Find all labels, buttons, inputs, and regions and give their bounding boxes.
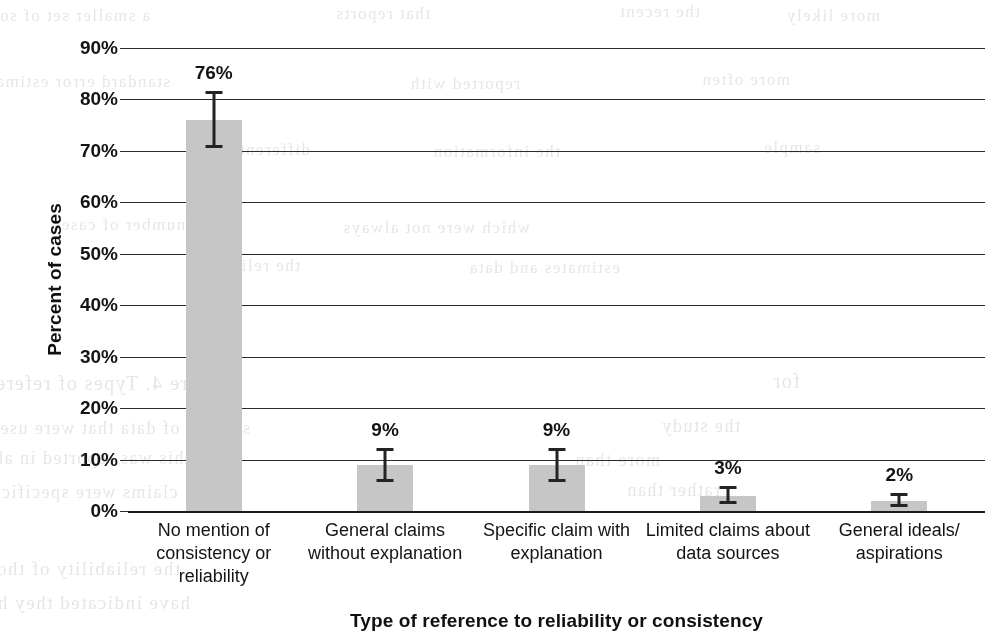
x-axis-category-label: No mention ofconsistency orreliability [128, 519, 299, 588]
bar[interactable] [186, 120, 242, 511]
error-bar-cap-lower [205, 145, 222, 148]
y-axis-tick-label: 20% [0, 398, 118, 417]
y-axis-tick-label: 10% [0, 450, 118, 469]
x-axis-category-label-line: No mention of [128, 519, 299, 542]
x-axis-category-label-line: without explanation [299, 542, 470, 565]
error-bar-cap-upper [205, 91, 222, 94]
y-axis-title-holder: Percent of cases [44, 48, 74, 511]
bar-value-label: 76% [195, 63, 233, 82]
error-bar-cap-upper [891, 493, 908, 496]
y-axis-tick-label: 0% [0, 501, 118, 520]
error-bar-cap-lower [548, 479, 565, 482]
y-axis-tick-label: 30% [0, 347, 118, 366]
y-axis-tick-label: 70% [0, 141, 118, 160]
error-bar-cap-upper [377, 448, 394, 451]
bar-group[interactable]: 9% [529, 48, 585, 511]
bar-chart: Percent of cases 0%10%20%30%40%50%60%70%… [0, 0, 1008, 637]
bar-group[interactable]: 3% [700, 48, 756, 511]
y-axis-tick-label: 50% [0, 244, 118, 263]
error-bar-cap-upper [719, 486, 736, 489]
error-bar-line [384, 449, 387, 480]
x-axis-category-label-line: explanation [471, 542, 642, 565]
gridline [128, 511, 985, 513]
error-bar-cap-lower [377, 479, 394, 482]
y-axis-tick-label: 40% [0, 295, 118, 314]
plot-area: 76%9%9%3%2% [128, 48, 985, 511]
error-bar-line [212, 92, 215, 146]
x-axis-category-label-line: General ideals/ [814, 519, 985, 542]
x-axis-category-label: General ideals/aspirations [814, 519, 985, 565]
x-axis-title: Type of reference to reliability or cons… [128, 610, 985, 632]
x-axis-category-label-line: data sources [642, 542, 813, 565]
y-axis-tick-label: 80% [0, 89, 118, 108]
bar-value-label: 3% [714, 458, 741, 477]
x-axis-category-label-line: General claims [299, 519, 470, 542]
x-axis-category-label-line: consistency or [128, 542, 299, 565]
x-axis-category-label-line: reliability [128, 565, 299, 588]
bar-group[interactable]: 76% [186, 48, 242, 511]
x-axis-category-label: Specific claim withexplanation [471, 519, 642, 565]
bar-group[interactable]: 9% [357, 48, 413, 511]
y-axis-tick-label: 60% [0, 192, 118, 211]
bar-value-label: 9% [371, 420, 398, 439]
y-axis-title: Percent of cases [40, 48, 70, 511]
x-axis-category-label-line: Specific claim with [471, 519, 642, 542]
error-bar-line [555, 449, 558, 480]
x-axis-category-label: General claimswithout explanation [299, 519, 470, 565]
x-axis-category-label: Limited claims aboutdata sources [642, 519, 813, 565]
bar-value-label: 9% [543, 420, 570, 439]
error-bar-cap-lower [891, 504, 908, 507]
x-axis-category-label-line: aspirations [814, 542, 985, 565]
error-bar-line [726, 487, 729, 501]
error-bar-cap-upper [548, 448, 565, 451]
y-axis-tick-label: 90% [0, 38, 118, 57]
bar-value-label: 2% [886, 465, 913, 484]
bar-group[interactable]: 2% [871, 48, 927, 511]
error-bar-cap-lower [719, 501, 736, 504]
x-axis-category-label-line: Limited claims about [642, 519, 813, 542]
